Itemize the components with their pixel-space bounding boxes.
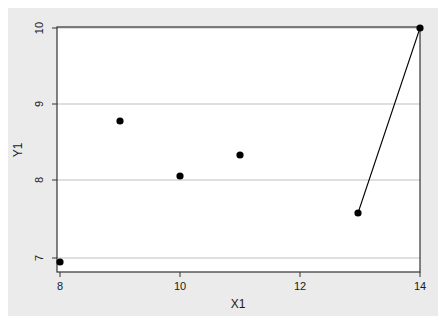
y-tick-label-9: 9 xyxy=(33,101,45,107)
scatter-plot-svg: 10 9 8 7 8 10 12 14 X1 Y1 xyxy=(8,8,438,316)
plot-panel-background xyxy=(57,27,420,272)
data-point xyxy=(236,151,243,158)
chart-root: 10 9 8 7 8 10 12 14 X1 Y1 xyxy=(0,0,446,324)
y-axis-title: Y1 xyxy=(11,142,25,157)
data-point xyxy=(354,209,361,216)
x-tick-label-10: 10 xyxy=(174,280,186,292)
y-tick-label-10: 10 xyxy=(33,22,45,34)
data-point xyxy=(416,24,423,31)
data-point xyxy=(56,258,63,265)
data-point xyxy=(176,172,183,179)
x-tick-label-14: 14 xyxy=(414,280,426,292)
y-tick-label-8: 8 xyxy=(33,177,45,183)
y-axis-tick-group xyxy=(52,28,57,258)
data-point xyxy=(116,117,123,124)
chart-figure-background: 10 9 8 7 8 10 12 14 X1 Y1 xyxy=(8,8,438,316)
x-axis-tick-group xyxy=(60,272,420,277)
x-tick-label-8: 8 xyxy=(57,280,63,292)
x-tick-label-12: 12 xyxy=(294,280,306,292)
x-axis-title: X1 xyxy=(231,297,246,311)
y-tick-label-7: 7 xyxy=(33,255,45,261)
